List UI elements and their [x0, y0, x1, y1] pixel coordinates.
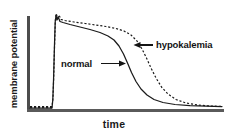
chart-plot-area [0, 0, 228, 135]
series-normal-line [30, 16, 222, 109]
action-potential-figure: membrane potential time normal hypokalem… [0, 0, 228, 135]
series-label-hypokalemia: hypokalemia [156, 40, 212, 50]
x-axis-label: time [0, 119, 228, 130]
y-axis-label-text: membrane potential [9, 20, 19, 108]
hypokalemia-annotation-arrow [134, 42, 153, 48]
y-axis-label: membrane potential [8, 18, 20, 110]
normal-annotation-arrow [101, 61, 126, 67]
series-label-normal: normal [61, 59, 92, 69]
